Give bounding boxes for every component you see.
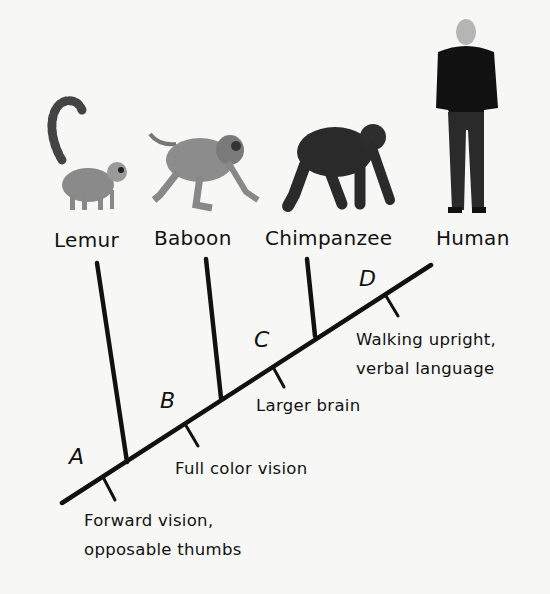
tick-b <box>185 424 198 446</box>
branch-chimpanzee <box>307 259 315 336</box>
node-label-b: B <box>160 388 175 413</box>
node-label-d: D <box>359 266 376 291</box>
tick-c <box>273 367 284 387</box>
node-label-a: A <box>69 444 84 469</box>
trait-d-line1: Walking upright, <box>356 325 496 354</box>
baboon-icon <box>150 134 258 208</box>
trait-label-a: Forward vision, opposable thumbs <box>84 506 242 564</box>
trait-label-c: Larger brain <box>256 391 360 420</box>
branch-lemur <box>97 263 127 462</box>
node-label-c: C <box>254 327 270 352</box>
trait-b-line1: Full color vision <box>175 454 308 483</box>
trait-a-line1: Forward vision, <box>84 506 242 535</box>
taxon-label-human: Human <box>436 226 510 250</box>
animal-figures <box>0 0 550 594</box>
tick-d <box>386 296 398 316</box>
trait-c-line1: Larger brain <box>256 391 360 420</box>
chimpanzee-icon <box>288 124 390 206</box>
trait-label-b: Full color vision <box>175 454 308 483</box>
taxon-label-lemur: Lemur <box>54 228 119 252</box>
branch-baboon <box>206 259 221 398</box>
cladogram: Lemur Baboon Chimpanzee Human A B C D Fo… <box>0 0 550 594</box>
taxon-label-chimpanzee: Chimpanzee <box>265 226 392 250</box>
trait-label-d: Walking upright, verbal language <box>356 325 496 383</box>
taxon-label-baboon: Baboon <box>154 226 232 250</box>
tick-a <box>103 477 115 500</box>
lemur-icon <box>52 101 127 210</box>
human-icon <box>436 19 498 213</box>
trait-a-line2: opposable thumbs <box>84 535 242 564</box>
trait-d-line2: verbal language <box>356 354 496 383</box>
